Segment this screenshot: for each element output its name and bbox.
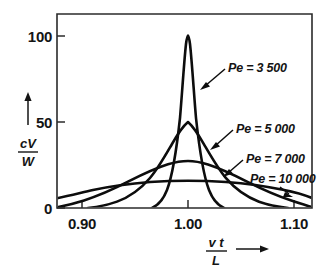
x-axis-title-group: v t L — [206, 235, 269, 268]
x-tick-label-1-10: 1.10 — [280, 215, 308, 232]
x-axis-label-numerator: v t — [208, 235, 224, 250]
figure-container: 100 50 0 0.90 1.00 1.10 cV W v t L — [0, 0, 326, 270]
up-arrow-icon — [24, 92, 31, 125]
annotation-pe-10000: Pe = 10 000 — [250, 172, 316, 197]
x-axis-label-denominator: L — [212, 253, 220, 268]
x-tick-label-1-00: 1.00 — [174, 215, 202, 232]
annotation-pointer-pe-3500 — [205, 69, 225, 86]
y-tick-label-100: 100 — [28, 28, 52, 45]
y-tick-label-50: 50 — [36, 114, 52, 131]
y-axis-label-numerator: cV — [20, 136, 37, 151]
x-tick-labels: 0.90 1.00 1.10 — [68, 215, 308, 232]
annotation-label-pe-5000: Pe = 5 000 — [236, 122, 295, 136]
x-tick-label-0-90: 0.90 — [68, 215, 96, 232]
y-axis-ticks — [57, 36, 65, 208]
y-tick-labels: 100 50 0 — [28, 28, 52, 217]
right-arrow-icon — [236, 245, 269, 252]
annotation-label-pe-7000: Pe = 7 000 — [246, 152, 305, 166]
annotation-pe-3500: Pe = 3 500 — [200, 61, 287, 90]
annotation-pointer-pe-5000 — [215, 130, 233, 146]
chart-canvas: 100 50 0 0.90 1.00 1.10 cV W v t L — [0, 0, 326, 270]
annotation-label-pe-3500: Pe = 3 500 — [228, 61, 287, 75]
annotation-pe-5000: Pe = 5 000 — [210, 122, 295, 150]
annotation-label-pe-10000: Pe = 10 000 — [250, 172, 316, 186]
y-tick-label-0: 0 — [44, 200, 52, 217]
y-axis-label-denominator: W — [22, 154, 36, 169]
